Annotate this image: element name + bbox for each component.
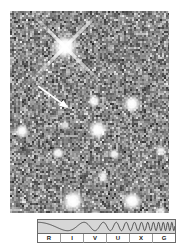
electromagnetic-spectrum-bar: RIVUXG bbox=[37, 219, 176, 243]
spectrum-band-ultraviolet: U bbox=[106, 234, 129, 243]
spectrum-wave-panel bbox=[38, 220, 175, 234]
spectrum-band-radio: R bbox=[38, 234, 60, 243]
astronomy-figure: RIVUXG bbox=[0, 0, 183, 245]
spectrum-band-infrared: I bbox=[60, 234, 83, 243]
sky-image bbox=[10, 11, 169, 213]
spectrum-band-visible: V bbox=[83, 234, 106, 243]
spectrum-band-gamma-ray: G bbox=[152, 234, 175, 243]
spectrum-wave-icon bbox=[38, 220, 175, 233]
spectrum-band-x-ray: X bbox=[129, 234, 152, 243]
spectrum-band-labels: RIVUXG bbox=[38, 234, 175, 243]
target-arrow-icon bbox=[10, 11, 169, 213]
